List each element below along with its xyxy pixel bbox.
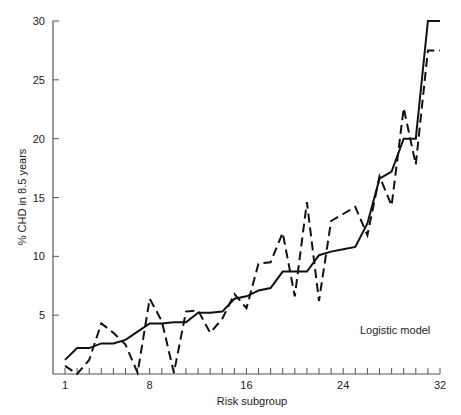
data-series xyxy=(65,21,440,374)
x-tick-label: 1 xyxy=(62,379,68,391)
x-axis-label: Risk subgroup xyxy=(217,395,287,407)
chd-risk-chart: 5101520253018162432 Risk subgroup % CHD … xyxy=(0,0,461,415)
axes xyxy=(53,21,440,374)
y-tick-label: 30 xyxy=(33,15,45,27)
y-tick-label: 15 xyxy=(33,192,45,204)
x-tick-label: 24 xyxy=(337,379,349,391)
x-tick-label: 8 xyxy=(147,379,153,391)
logistic-model-line xyxy=(65,21,440,360)
y-tick-label: 10 xyxy=(33,250,45,262)
x-tick-label: 16 xyxy=(240,379,252,391)
model-annotation: Logistic model xyxy=(360,324,430,336)
y-axis-label: % CHD in 8.5 years xyxy=(16,148,28,245)
y-tick-label: 20 xyxy=(33,133,45,145)
x-tick-label: 32 xyxy=(434,379,446,391)
y-tick-label: 25 xyxy=(33,74,45,86)
y-tick-label: 5 xyxy=(39,309,45,321)
